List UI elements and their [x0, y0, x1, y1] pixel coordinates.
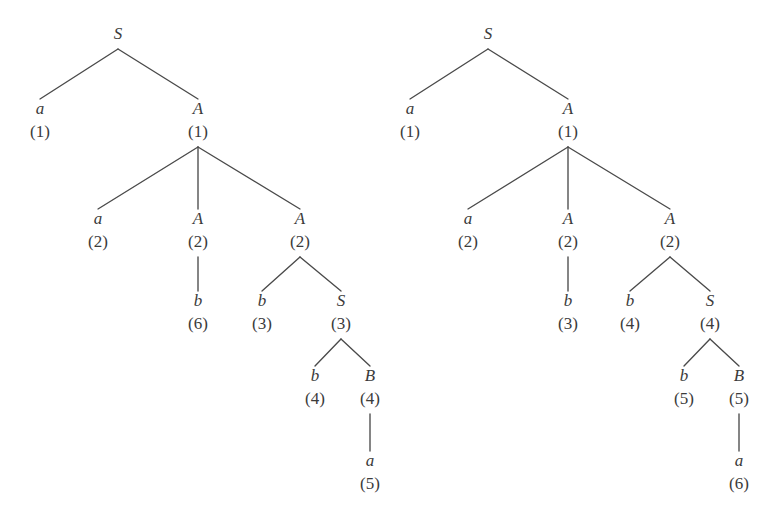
node-step-index: (2)	[660, 232, 680, 251]
node-step-index: (5)	[674, 389, 694, 408]
node-symbol-label: a	[464, 209, 473, 228]
node-symbol-label: a	[36, 99, 45, 118]
node-symbol-label: S	[337, 291, 346, 310]
node-symbol-label: B	[365, 366, 376, 385]
node-step-index: (3)	[331, 314, 351, 333]
node-symbol-label: S	[706, 291, 715, 310]
node-step-index: (2)	[290, 232, 310, 251]
node-symbol-label: A	[562, 99, 574, 118]
tree-node: a(2)	[88, 209, 108, 251]
tree-node: B(5)	[729, 366, 749, 408]
node-symbol-label: a	[94, 209, 103, 228]
tree-node: A(2)	[660, 209, 680, 251]
node-symbol-label: b	[194, 291, 203, 310]
node-symbol-label: a	[366, 451, 375, 470]
tree-node: b(6)	[188, 291, 208, 333]
tree-node: S	[114, 24, 123, 43]
tree-edge	[410, 49, 488, 99]
tree-node: A(1)	[188, 99, 208, 141]
tree-node: b(4)	[305, 366, 325, 408]
left-parse-tree: Sa(1)A(1)a(2)A(2)A(2)b(6)b(3)S(3)b(4)B(4…	[30, 24, 380, 493]
tree-edge	[630, 257, 670, 291]
tree-node: a(1)	[400, 99, 420, 141]
tree-edge	[118, 49, 198, 99]
node-symbol-label: A	[192, 209, 204, 228]
node-symbol-label: b	[311, 366, 320, 385]
node-step-index: (6)	[729, 474, 749, 493]
tree-node: S(3)	[331, 291, 351, 333]
tree-node: B(4)	[360, 366, 380, 408]
tree-edge	[300, 257, 341, 291]
parse-tree-figure: Sa(1)A(1)a(2)A(2)A(2)b(6)b(3)S(3)b(4)B(4…	[0, 0, 782, 523]
tree-node: A(2)	[188, 209, 208, 251]
node-symbol-label: A	[294, 209, 306, 228]
node-symbol-label: S	[484, 24, 493, 43]
node-symbol-label: a	[735, 451, 744, 470]
node-symbol-label: A	[192, 99, 204, 118]
tree-edge	[710, 339, 739, 366]
node-symbol-label: A	[664, 209, 676, 228]
tree-node: a(1)	[30, 99, 50, 141]
tree-edge	[468, 147, 568, 209]
tree-edge	[40, 49, 118, 99]
tree-node: A(2)	[290, 209, 310, 251]
node-step-index: (1)	[400, 122, 420, 141]
node-step-index: (1)	[30, 122, 50, 141]
node-step-index: (2)	[558, 232, 578, 251]
tree-edge	[684, 339, 710, 366]
tree-node: b(4)	[620, 291, 640, 333]
node-step-index: (4)	[305, 389, 325, 408]
node-step-index: (5)	[729, 389, 749, 408]
tree-node: a(6)	[729, 451, 749, 493]
node-symbol-label: b	[564, 291, 573, 310]
tree-node: S(4)	[700, 291, 720, 333]
tree-edge	[315, 339, 341, 366]
node-step-index: (2)	[88, 232, 108, 251]
tree-edge	[568, 147, 670, 209]
node-symbol-label: b	[680, 366, 689, 385]
node-step-index: (5)	[360, 474, 380, 493]
node-symbol-label: A	[562, 209, 574, 228]
node-step-index: (3)	[558, 314, 578, 333]
node-step-index: (4)	[360, 389, 380, 408]
node-symbol-label: b	[258, 291, 267, 310]
node-step-index: (2)	[188, 232, 208, 251]
node-symbol-label: b	[626, 291, 635, 310]
node-step-index: (4)	[700, 314, 720, 333]
tree-node: a(2)	[458, 209, 478, 251]
tree-node: b(5)	[674, 366, 694, 408]
node-step-index: (1)	[558, 122, 578, 141]
tree-edge	[262, 257, 300, 291]
tree-node: A(2)	[558, 209, 578, 251]
tree-node: b(3)	[558, 291, 578, 333]
node-step-index: (1)	[188, 122, 208, 141]
node-step-index: (2)	[458, 232, 478, 251]
node-step-index: (4)	[620, 314, 640, 333]
tree-edge	[341, 339, 370, 366]
node-symbol-label: a	[406, 99, 415, 118]
node-symbol-label: S	[114, 24, 123, 43]
node-symbol-label: B	[734, 366, 745, 385]
tree-node: S	[484, 24, 493, 43]
tree-edge	[488, 49, 568, 99]
parse-tree-canvas: Sa(1)A(1)a(2)A(2)A(2)b(6)b(3)S(3)b(4)B(4…	[0, 0, 782, 523]
tree-node: a(5)	[360, 451, 380, 493]
tree-edge	[98, 147, 198, 209]
node-step-index: (3)	[252, 314, 272, 333]
tree-node: b(3)	[252, 291, 272, 333]
right-parse-tree: Sa(1)A(1)a(2)A(2)A(2)b(3)b(4)S(4)b(5)B(5…	[400, 24, 749, 493]
tree-node: A(1)	[558, 99, 578, 141]
node-step-index: (6)	[188, 314, 208, 333]
tree-edge	[670, 257, 710, 291]
tree-edge	[198, 147, 300, 209]
